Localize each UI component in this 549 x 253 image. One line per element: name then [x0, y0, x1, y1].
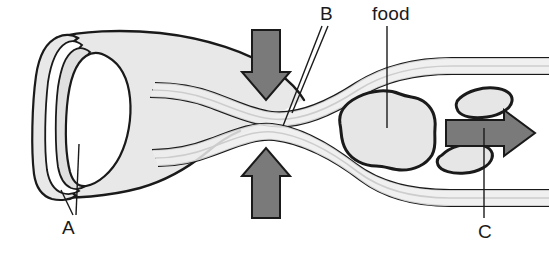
label-b: B: [320, 4, 333, 23]
diagram-canvas: A B food C: [0, 0, 549, 253]
label-food: food: [372, 4, 410, 23]
label-c: C: [478, 222, 492, 241]
leader-line-b-2: [292, 26, 328, 113]
label-a: A: [62, 218, 75, 237]
peristalsis-illustration: [0, 0, 549, 253]
compression-arrow-up: [242, 148, 290, 218]
